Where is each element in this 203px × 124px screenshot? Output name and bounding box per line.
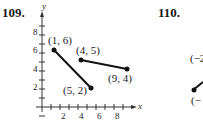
x-tick-8: 8 <box>115 111 120 121</box>
y-tick-4: 4 <box>33 64 38 74</box>
point-label-1-6: (1, 6) <box>48 34 72 46</box>
point-label-5-2: (5, 2) <box>63 84 87 96</box>
graph110-label-top: (−2 <box>190 52 203 64</box>
graph-109-plot <box>0 0 203 124</box>
y-axis-label: y <box>42 1 46 11</box>
x-tick-2: 2 <box>61 111 66 121</box>
graph110-label-bottom: (− <box>191 94 201 106</box>
y-tick-2: 2 <box>33 82 38 92</box>
x-tick-6: 6 <box>97 111 102 121</box>
point-label-9-4: (9, 4) <box>108 72 132 84</box>
y-tick-6: 6 <box>33 45 38 55</box>
x-tick-4: 4 <box>79 111 84 121</box>
y-tick-8: 8 <box>33 27 38 37</box>
x-axis-label: x <box>138 101 142 111</box>
point-label-4-5: (4, 5) <box>76 44 100 56</box>
